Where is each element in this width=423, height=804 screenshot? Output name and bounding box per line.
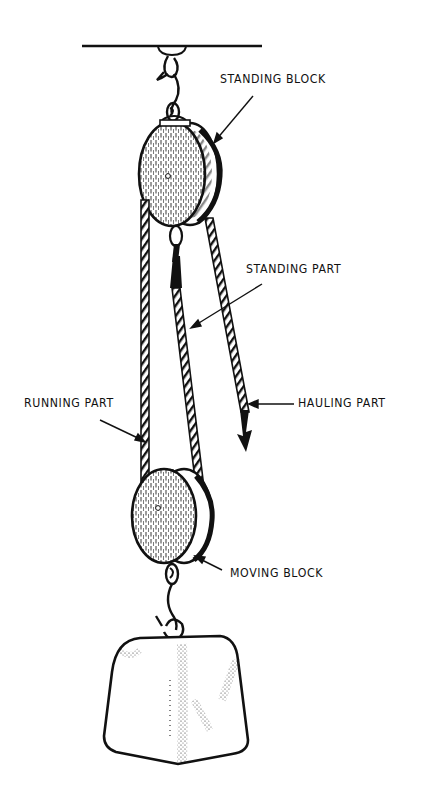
hauling-part-rope [205,218,252,452]
bottom-hook [156,564,183,640]
ceiling-beam [82,46,262,55]
standing-part-rope [172,288,204,488]
label-moving-block: MOVING BLOCK [230,567,323,581]
label-standing-block: STANDING BLOCK [220,73,326,87]
label-running-part: RUNNING PART [24,397,114,411]
standing-block [139,120,220,226]
label-standing-part: STANDING PART [246,263,341,277]
label-hauling-part: HAULING PART [298,397,386,411]
moving-block [132,469,212,563]
weight [104,636,248,764]
becket [170,226,182,288]
top-hook [157,56,186,121]
